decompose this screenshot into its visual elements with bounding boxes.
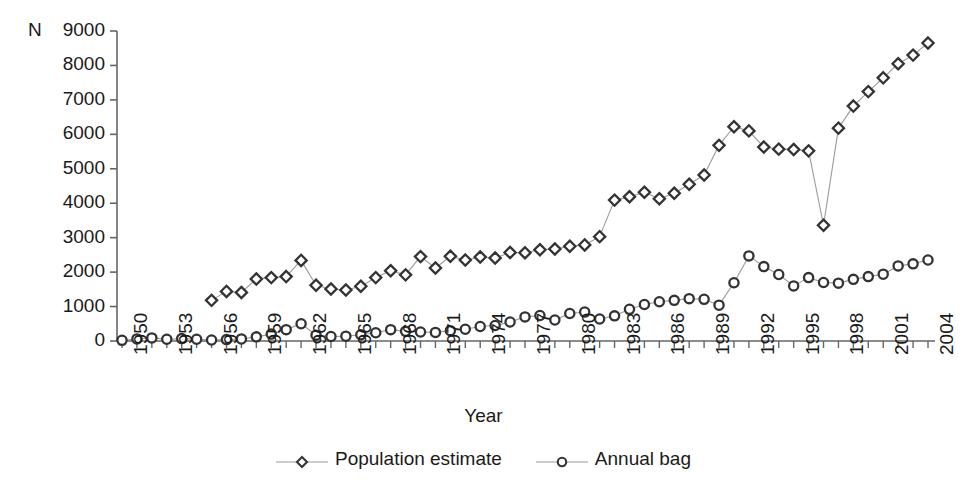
y-axis-tick-label: 8000: [63, 53, 105, 75]
data-point-marker: [430, 262, 441, 273]
data-point-marker: [415, 251, 426, 262]
y-axis-tick-label: 3000: [63, 226, 105, 248]
data-point-marker: [624, 191, 635, 202]
legend-diamond-icon: [276, 452, 328, 466]
data-point-marker: [684, 179, 695, 190]
data-point-marker: [117, 336, 126, 345]
data-point-marker: [520, 312, 529, 321]
x-axis-tick-label: 1968: [399, 313, 421, 355]
chart-legend: Population estimateAnnual bag: [0, 448, 967, 470]
x-axis-tick-label: 1962: [309, 313, 331, 355]
data-point-marker: [565, 309, 574, 318]
data-point-marker: [579, 239, 590, 250]
data-point-marker: [340, 284, 351, 295]
data-point-marker: [297, 319, 306, 328]
data-point-marker: [922, 37, 933, 48]
data-point-marker: [534, 244, 545, 255]
data-point-marker: [804, 273, 813, 282]
data-point-marker: [788, 144, 799, 155]
y-axis-tick-label: 5000: [63, 157, 105, 179]
data-point-marker: [610, 311, 619, 320]
data-point-marker: [519, 247, 530, 258]
data-point-marker: [744, 251, 753, 260]
x-axis-tick-label: 2004: [936, 313, 958, 355]
data-point-marker: [640, 300, 649, 309]
x-axis-tick-label: 1998: [846, 313, 868, 355]
x-axis-tick-label: 1992: [757, 313, 779, 355]
data-point-marker: [549, 243, 560, 254]
data-point-marker: [564, 241, 575, 252]
data-point-marker: [504, 247, 515, 258]
data-point-marker: [819, 278, 828, 287]
x-axis-tick-label: 1953: [175, 313, 197, 355]
data-point-marker: [490, 252, 501, 263]
data-point-marker: [864, 272, 873, 281]
x-axis-tick-label: 1980: [578, 313, 600, 355]
data-point-marker: [385, 265, 396, 276]
data-point-marker: [206, 295, 217, 306]
x-axis-tick-label: 1950: [130, 313, 152, 355]
data-point-marker: [654, 193, 665, 204]
data-point-marker: [341, 332, 350, 341]
data-point-marker: [609, 195, 620, 206]
data-point-marker: [849, 275, 858, 284]
data-point-marker: [431, 328, 440, 337]
data-point-marker: [655, 297, 664, 306]
x-axis-tick-label: 1965: [354, 313, 376, 355]
y-axis-tick-label: 9000: [63, 19, 105, 41]
x-axis-tick-label: 1989: [712, 313, 734, 355]
y-axis-unit-label: N: [28, 19, 42, 41]
data-point-marker: [728, 121, 739, 132]
legend-label: Population estimate: [335, 448, 502, 470]
data-point-marker: [714, 301, 723, 310]
data-point-marker: [700, 295, 709, 304]
data-point-marker: [818, 220, 829, 231]
data-point-marker: [789, 281, 798, 290]
data-point-marker: [370, 272, 381, 283]
data-point-marker: [386, 325, 395, 334]
data-point-marker: [670, 296, 679, 305]
x-axis-tick-label: 1959: [264, 313, 286, 355]
x-axis-tick-label: 1974: [488, 313, 510, 355]
data-point-marker: [685, 294, 694, 303]
data-point-marker: [325, 283, 336, 294]
data-point-marker: [460, 254, 471, 265]
data-point-marker: [834, 279, 843, 288]
data-point-marker: [803, 145, 814, 156]
data-point-marker: [774, 270, 783, 279]
data-point-marker: [310, 280, 321, 291]
y-axis-tick-label: 4000: [63, 191, 105, 213]
x-axis-tick-label: 1977: [533, 313, 555, 355]
data-point-marker: [879, 270, 888, 279]
data-point-marker: [894, 261, 903, 270]
data-point-marker: [923, 255, 932, 264]
data-point-marker: [207, 335, 216, 344]
data-point-marker: [833, 123, 844, 134]
legend-entry[interactable]: Population estimate: [276, 448, 502, 470]
x-axis-title: Year: [0, 405, 967, 427]
legend-label: Annual bag: [595, 448, 691, 470]
x-axis-tick-label: 1956: [220, 313, 242, 355]
data-point-marker: [594, 231, 605, 242]
data-point-marker: [400, 269, 411, 280]
y-axis-ticks: [110, 31, 117, 341]
x-axis-tick-label: 1986: [667, 313, 689, 355]
data-point-marker: [475, 251, 486, 262]
y-axis-tick-label: 2000: [63, 260, 105, 282]
data-point-marker: [476, 322, 485, 331]
x-axis-tick-label: 1971: [443, 313, 465, 355]
y-axis-tick-label: 1000: [63, 295, 105, 317]
legend-circle-icon: [536, 452, 588, 466]
data-point-marker: [445, 251, 456, 262]
data-point-marker: [729, 278, 738, 287]
y-axis-tick-label: 7000: [63, 88, 105, 110]
data-point-marker: [773, 144, 784, 155]
data-point-marker: [699, 169, 710, 180]
data-point-marker: [759, 262, 768, 271]
data-point-marker: [221, 286, 232, 297]
data-point-marker: [266, 272, 277, 283]
chart-figure: N 0100020003000400050006000700080009000 …: [0, 0, 967, 490]
data-point-marker: [907, 50, 918, 61]
legend-entry[interactable]: Annual bag: [536, 448, 691, 470]
data-point-marker: [669, 188, 680, 199]
